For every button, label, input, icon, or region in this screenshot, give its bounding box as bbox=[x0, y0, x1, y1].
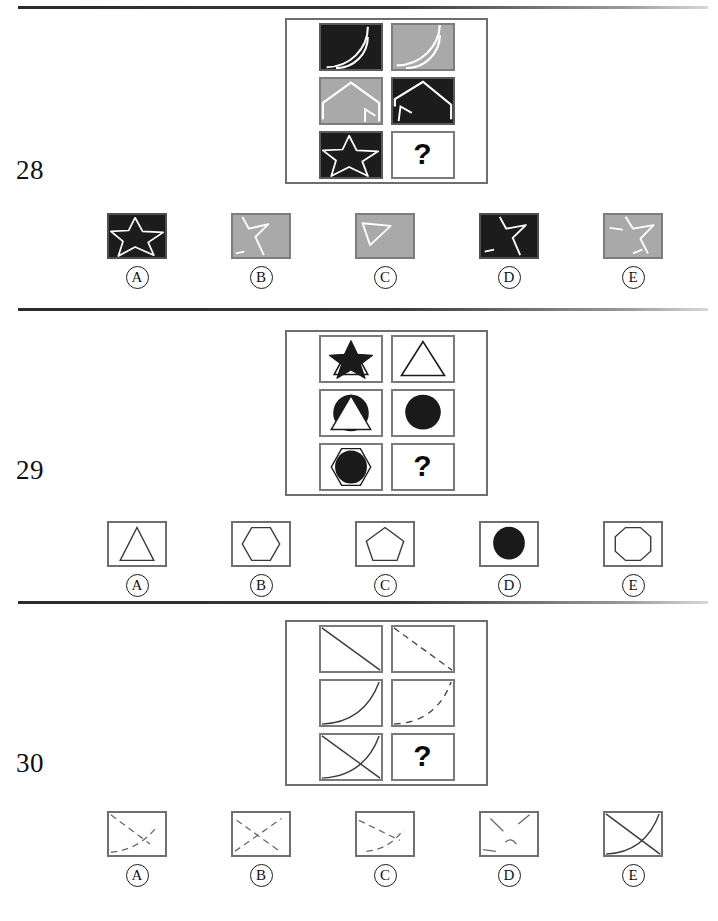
option-letter: E bbox=[622, 266, 645, 289]
triangle-open-icon bbox=[357, 215, 413, 257]
option-30-C[interactable]: C bbox=[346, 811, 424, 887]
question-mark: ? bbox=[393, 133, 453, 177]
circle-filled-icon bbox=[481, 523, 537, 565]
star-partial-icon bbox=[481, 215, 537, 257]
pentagon-house-icon bbox=[321, 79, 381, 123]
diagonal-and-curve-dashed-icon bbox=[357, 813, 413, 855]
option-figure-box[interactable] bbox=[231, 213, 291, 259]
matrix-cell-r3c2: ? bbox=[391, 443, 455, 491]
matrix-cell-r3c1 bbox=[319, 733, 383, 781]
circle-with-triangle-icon bbox=[321, 391, 381, 435]
question-number-30: 30 bbox=[16, 748, 44, 779]
matrix-cell-r1c1 bbox=[319, 23, 383, 71]
triangle-open-icon bbox=[393, 337, 453, 381]
double-arc-icon bbox=[393, 25, 453, 69]
option-figure-box[interactable] bbox=[479, 213, 539, 259]
matrix-cell-r2c2 bbox=[391, 389, 455, 437]
star-partial-icon bbox=[233, 215, 289, 257]
option-28-C[interactable]: C bbox=[346, 213, 424, 289]
option-figure-box[interactable] bbox=[107, 521, 167, 567]
triangle-open-icon bbox=[109, 523, 165, 565]
option-figure-box[interactable] bbox=[603, 811, 663, 857]
diagonal-solid-icon bbox=[321, 627, 381, 671]
diagonal-dashed-icon bbox=[393, 627, 453, 671]
option-figure-box[interactable] bbox=[355, 811, 415, 857]
curve-solid-icon bbox=[321, 681, 381, 725]
option-letter: A bbox=[126, 864, 149, 887]
option-figure-box[interactable] bbox=[603, 521, 663, 567]
option-figure-box[interactable] bbox=[231, 521, 291, 567]
matrix-cell-r2c1 bbox=[319, 679, 383, 727]
option-figure-box[interactable] bbox=[479, 811, 539, 857]
octagon-open-icon bbox=[605, 523, 661, 565]
matrix-cell-r3c1 bbox=[319, 131, 383, 179]
matrix-cell-r1c1 bbox=[319, 625, 383, 673]
question-mark: ? bbox=[393, 445, 453, 489]
matrix-cell-r1c2 bbox=[391, 23, 455, 71]
option-figure-box[interactable] bbox=[355, 521, 415, 567]
option-figure-box[interactable] bbox=[603, 213, 663, 259]
diagonal-and-curve-dashed-icon bbox=[109, 813, 165, 855]
matrix-grid-28: ? bbox=[319, 23, 455, 179]
double-arc-icon bbox=[321, 25, 381, 69]
star-outline-icon bbox=[321, 133, 381, 177]
option-figure-box[interactable] bbox=[231, 811, 291, 857]
option-28-B[interactable]: B bbox=[222, 213, 300, 289]
option-29-B[interactable]: B bbox=[222, 521, 300, 597]
matrix-cell-r2c2 bbox=[391, 679, 455, 727]
section-divider-top bbox=[18, 6, 708, 9]
option-figure-box[interactable] bbox=[355, 213, 415, 259]
options-row-28: A B C bbox=[0, 213, 718, 303]
matrix-cell-r3c2: ? bbox=[391, 131, 455, 179]
option-28-A[interactable]: A bbox=[98, 213, 176, 289]
hexagon-open-icon bbox=[233, 523, 289, 565]
option-29-A[interactable]: A bbox=[98, 521, 176, 597]
triangle-with-filled-star-icon bbox=[321, 337, 381, 381]
option-letter: A bbox=[126, 266, 149, 289]
matrix-cell-r3c2: ? bbox=[391, 733, 455, 781]
matrix-grid-30: ? bbox=[319, 625, 455, 781]
option-letter: B bbox=[250, 574, 273, 597]
matrix-cell-r1c2 bbox=[391, 625, 455, 673]
matrix-frame-30: ? bbox=[285, 620, 488, 786]
option-28-D[interactable]: D bbox=[470, 213, 548, 289]
circle-filled-icon bbox=[393, 391, 453, 435]
diagonal-and-curve-dashed-icon bbox=[233, 813, 289, 855]
option-letter: C bbox=[374, 864, 397, 887]
matrix-cell-r1c1 bbox=[319, 335, 383, 383]
options-row-29: A B C D bbox=[0, 521, 718, 611]
diagonal-and-curve-solid-icon bbox=[605, 813, 661, 855]
diagonal-and-curve-dashed-icon bbox=[481, 813, 537, 855]
option-letter: E bbox=[622, 864, 645, 887]
matrix-cell-r2c1 bbox=[319, 77, 383, 125]
diagonal-and-curve-solid-icon bbox=[321, 735, 381, 779]
option-30-B[interactable]: B bbox=[222, 811, 300, 887]
option-figure-box[interactable] bbox=[479, 521, 539, 567]
option-letter: A bbox=[126, 574, 149, 597]
option-letter: D bbox=[498, 574, 521, 597]
pentagon-open-icon bbox=[357, 523, 413, 565]
option-letter: B bbox=[250, 266, 273, 289]
option-30-E[interactable]: E bbox=[594, 811, 672, 887]
matrix-cell-r2c2 bbox=[391, 77, 455, 125]
question-number-28: 28 bbox=[16, 155, 44, 186]
matrix-frame-28: ? bbox=[285, 18, 488, 184]
question-number-29: 29 bbox=[16, 455, 44, 486]
option-figure-box[interactable] bbox=[107, 811, 167, 857]
section-divider-1 bbox=[18, 308, 708, 311]
option-28-E[interactable]: E bbox=[594, 213, 672, 289]
option-figure-box[interactable] bbox=[107, 213, 167, 259]
options-row-30: A B C bbox=[0, 811, 718, 901]
option-29-E[interactable]: E bbox=[594, 521, 672, 597]
option-letter: B bbox=[250, 864, 273, 887]
option-29-D[interactable]: D bbox=[470, 521, 548, 597]
option-letter: D bbox=[498, 864, 521, 887]
hexagon-with-filled-circle-icon bbox=[321, 445, 381, 489]
star-outline-icon bbox=[605, 215, 661, 257]
matrix-cell-r2c1 bbox=[319, 389, 383, 437]
option-30-A[interactable]: A bbox=[98, 811, 176, 887]
option-29-C[interactable]: C bbox=[346, 521, 424, 597]
option-letter: C bbox=[374, 266, 397, 289]
option-30-D[interactable]: D bbox=[470, 811, 548, 887]
option-letter: E bbox=[622, 574, 645, 597]
